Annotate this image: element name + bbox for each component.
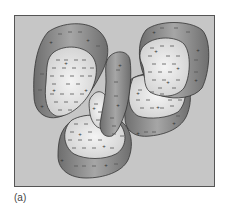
svg-text:+: + bbox=[102, 143, 106, 149]
top-right-aggregate bbox=[139, 23, 208, 98]
svg-text:+: + bbox=[92, 105, 96, 111]
svg-text:+: + bbox=[60, 157, 64, 163]
svg-text:+: + bbox=[78, 131, 82, 137]
svg-text:+: + bbox=[196, 47, 200, 53]
svg-text:+: + bbox=[86, 37, 90, 43]
svg-text:+: + bbox=[172, 120, 176, 126]
svg-text:+: + bbox=[176, 65, 180, 71]
svg-text:+: + bbox=[64, 60, 68, 66]
svg-text:+: + bbox=[152, 29, 156, 35]
svg-text:+: + bbox=[118, 62, 122, 68]
svg-text:+: + bbox=[40, 103, 44, 109]
svg-text:+: + bbox=[194, 77, 198, 83]
particle-aggregate-diagram: + + + + + + + + + + + + + + + + + + + + … bbox=[0, 0, 230, 210]
svg-text:+: + bbox=[49, 39, 53, 45]
svg-text:+: + bbox=[84, 87, 88, 93]
svg-text:+: + bbox=[156, 104, 160, 110]
svg-text:+: + bbox=[116, 102, 120, 108]
svg-text:+: + bbox=[136, 90, 140, 96]
svg-text:+: + bbox=[136, 130, 140, 136]
svg-text:+: + bbox=[166, 79, 170, 85]
figure-caption: (a) bbox=[14, 192, 26, 203]
svg-text:+: + bbox=[154, 48, 158, 54]
svg-text:+: + bbox=[52, 87, 56, 93]
svg-text:+: + bbox=[104, 162, 108, 168]
